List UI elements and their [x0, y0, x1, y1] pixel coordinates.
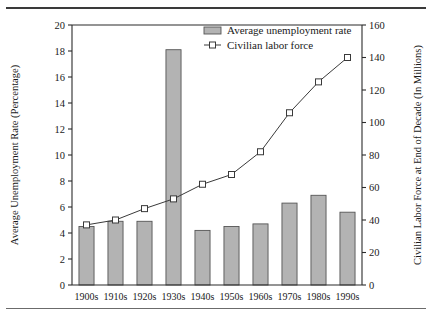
right-axis-tick-label: 80	[369, 150, 380, 161]
right-axis-tick-label: 20	[369, 247, 380, 258]
right-axis-title: Civilian Labor Force at End of Decade (I…	[412, 45, 424, 265]
right-axis-tick-label: 40	[369, 215, 380, 226]
bottom-divider-rule	[6, 308, 426, 309]
category-axis-labels: 1900s1910s1920s1930s1940s1950s1960s1970s…	[75, 291, 360, 302]
bar-1920s	[137, 221, 152, 285]
category-label-1920s: 1920s	[133, 291, 157, 302]
category-label-1930s: 1930s	[162, 291, 186, 302]
category-label-1910s: 1910s	[104, 291, 128, 302]
line-marker-1970s	[287, 110, 293, 116]
legend-label-unemployment: Average unemployment rate	[227, 24, 352, 36]
right-axis-tick-label: 100	[369, 117, 385, 128]
right-axis-tick-label: 60	[369, 182, 380, 193]
bar-1900s	[79, 227, 94, 286]
top-divider-rule	[6, 7, 426, 9]
line-marker-1920s	[142, 206, 148, 212]
bar-1960s	[253, 224, 268, 285]
category-label-1970s: 1970s	[278, 291, 302, 302]
line-marker-1960s	[258, 149, 264, 155]
left-axis-tick-label: 8	[60, 176, 65, 187]
dual-axis-chart: 02468101214161820 020406080100120140160 …	[0, 0, 432, 316]
left-axis-tick-label: 14	[55, 98, 66, 109]
legend-label-labor-force: Civilian labor force	[227, 39, 313, 51]
bar-1930s	[166, 50, 181, 285]
category-label-1900s: 1900s	[75, 291, 99, 302]
bar-1980s	[311, 195, 326, 285]
left-axis-tick-label: 2	[60, 254, 65, 265]
bar-1970s	[282, 203, 297, 285]
left-axis-tick-label: 4	[60, 228, 66, 239]
legend-swatch-bar	[204, 27, 221, 34]
chart-legend: Average unemployment rateCivilian labor …	[204, 24, 352, 51]
line-marker-1900s	[84, 222, 90, 228]
left-axis-tick-label: 6	[60, 202, 65, 213]
line-marker-1980s	[316, 79, 322, 85]
bar-1940s	[195, 230, 210, 285]
line-marker-1950s	[229, 172, 235, 178]
category-label-1950s: 1950s	[220, 291, 244, 302]
left-axis-tick-label: 16	[55, 72, 66, 83]
line-marker-1940s	[200, 181, 206, 187]
line-marker-1990s	[345, 55, 351, 61]
left-axis-tick-label: 0	[60, 280, 65, 291]
left-axis-ticks: 02468101214161820	[55, 20, 73, 291]
legend-marker-sample	[210, 42, 216, 48]
left-axis-tick-label: 10	[55, 150, 66, 161]
civilian-labor-force-line	[87, 58, 348, 225]
category-label-1990s: 1990s	[336, 291, 360, 302]
right-axis-tick-label: 120	[369, 85, 385, 96]
line-series-group	[84, 55, 351, 228]
category-label-1980s: 1980s	[307, 291, 331, 302]
right-axis-tick-label: 160	[369, 20, 385, 31]
chart-figure: 02468101214161820 020406080100120140160 …	[0, 0, 432, 316]
category-label-1960s: 1960s	[249, 291, 273, 302]
line-marker-1930s	[171, 196, 177, 202]
bar-series-group	[79, 50, 355, 285]
right-axis-tick-label: 0	[369, 280, 374, 291]
right-axis-ticks: 020406080100120140160	[362, 20, 385, 291]
left-axis-tick-label: 18	[55, 46, 66, 57]
left-axis-tick-label: 20	[55, 20, 66, 31]
left-axis-tick-label: 12	[55, 124, 66, 135]
bar-1950s	[224, 227, 239, 286]
right-axis-tick-label: 140	[369, 52, 385, 63]
left-axis-title: Average Unemployment Rate (Percentage)	[9, 64, 21, 245]
bar-1910s	[108, 221, 123, 285]
category-label-1940s: 1940s	[191, 291, 215, 302]
bar-1990s	[340, 212, 355, 285]
line-marker-1910s	[113, 217, 119, 223]
